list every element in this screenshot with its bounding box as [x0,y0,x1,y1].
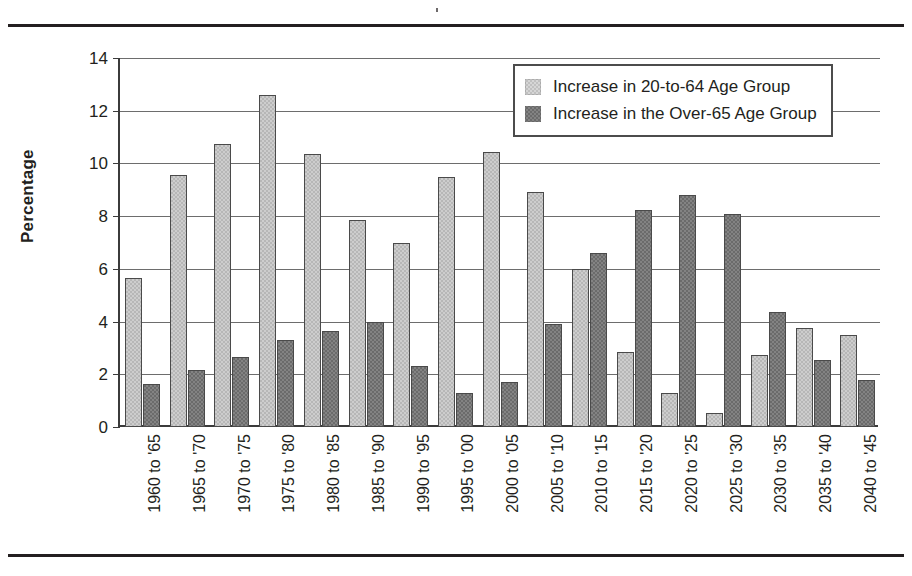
bar-20-to-64 [527,192,544,427]
x-axis-tick-label: 1980 to '85 [326,434,342,513]
bar-over-65 [143,384,160,427]
x-axis-tick-label: 1995 to '00 [460,434,476,513]
y-axis-tick [113,269,120,270]
y-axis-tick-label: 0 [99,419,108,436]
bar-over-65 [367,322,384,427]
bar-20-to-64 [125,278,142,427]
bar-over-65 [769,312,786,427]
x-axis-tick-label: 1965 to '70 [192,434,208,513]
bar-group [346,58,391,427]
x-axis-tick-label: 2010 to '15 [594,434,610,513]
x-axis-tick-label: 1990 to '95 [416,434,432,513]
bar-20-to-64 [617,352,634,427]
bar-over-65 [858,380,875,427]
bar-20-to-64 [170,175,187,427]
bar-group [211,58,256,427]
y-axis-tick-label: 10 [89,155,108,172]
bar-20-to-64 [259,95,276,427]
chart-legend: Increase in 20-to-64 Age Group Increase … [513,64,833,137]
bar-20-to-64 [751,355,768,427]
x-axis-tick-label: 1970 to '75 [237,434,253,513]
y-axis-tick [113,374,120,375]
bar-group [256,58,301,427]
y-axis-tick [113,216,120,217]
y-axis-tick-label: 12 [89,102,108,119]
bar-20-to-64 [661,393,678,427]
y-axis-tick-label: 2 [99,366,108,383]
bar-20-to-64 [349,220,366,427]
bar-group [435,58,480,427]
x-axis-tick-label: 2000 to '05 [505,434,521,513]
x-axis-tick-label: 2030 to '35 [773,434,789,513]
x-axis-tick-label: 1985 to '90 [371,434,387,513]
y-axis-tick [113,163,120,164]
bar-over-65 [188,370,205,427]
bar-over-65 [814,360,831,427]
y-axis-tick-label: 14 [89,50,108,67]
bar-over-65 [679,195,696,427]
bar-20-to-64 [706,413,723,427]
bar-20-to-64 [304,154,321,427]
page-speck [436,8,438,12]
bar-over-65 [456,393,473,427]
legend-swatch-light-icon [525,79,541,95]
y-axis-tick [113,58,120,59]
bar-20-to-64 [438,177,455,427]
x-axis-tick-label: 2025 to '30 [729,434,745,513]
x-axis-tick-label: 1960 to '65 [147,434,163,513]
y-axis-tick [113,322,120,323]
bar-over-65 [322,331,339,427]
y-axis-title: Percentage [18,149,38,243]
x-axis-labels: 1960 to '651965 to '701970 to '751975 to… [118,434,878,544]
x-axis-tick-label: 2035 to '40 [818,434,834,513]
bar-over-65 [545,324,562,427]
bar-over-65 [501,382,518,427]
x-axis-tick-label: 1975 to '80 [281,434,297,513]
bar-over-65 [411,366,428,427]
bar-20-to-64 [483,152,500,427]
bar-over-65 [635,210,652,427]
bar-group [167,58,212,427]
bar-group [301,58,346,427]
y-axis-tick-label: 6 [99,260,108,277]
legend-label-20-to-64: Increase in 20-to-64 Age Group [553,78,790,95]
legend-swatch-dark-icon [525,106,541,122]
y-axis-tick [113,111,120,112]
bar-20-to-64 [796,328,813,427]
bar-group [122,58,167,427]
figure-bottom-rule [8,554,904,557]
legend-label-over-65: Increase in the Over-65 Age Group [553,105,817,122]
bar-over-65 [232,357,249,427]
legend-item-over-65: Increase in the Over-65 Age Group [525,100,817,127]
bar-20-to-64 [840,335,857,427]
legend-item-20-to-64: Increase in 20-to-64 Age Group [525,73,817,100]
bar-group [837,58,882,427]
bar-over-65 [724,214,741,427]
x-axis-tick-label: 2005 to '10 [550,434,566,513]
x-axis-tick-label: 2020 to '25 [684,434,700,513]
figure-top-rule [8,24,904,27]
bar-20-to-64 [572,269,589,427]
x-axis-tick-label: 2040 to '45 [863,434,879,513]
bar-over-65 [590,253,607,427]
bar-20-to-64 [393,243,410,428]
bar-over-65 [277,340,294,427]
bar-20-to-64 [214,144,231,427]
y-axis-tick-label: 4 [99,313,108,330]
y-axis-tick [113,427,120,428]
bar-group [390,58,435,427]
y-axis-tick-label: 8 [99,208,108,225]
x-axis-tick-label: 2015 to '20 [639,434,655,513]
